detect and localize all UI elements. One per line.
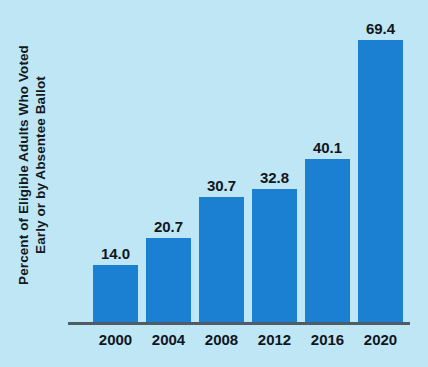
bar-series: 14.0 20.7 30.7 32.8 40.1 69.4 <box>68 14 412 322</box>
bar-rect <box>146 238 191 322</box>
bar-rect <box>199 197 244 322</box>
bar-rect <box>358 40 403 322</box>
y-axis-title-line-2: Early or by Absentee Ballot <box>32 45 49 285</box>
x-tick-label: 2008 <box>199 327 244 355</box>
bar-rect <box>305 159 350 322</box>
bar-chart: Percent of Eligible Adults Who Voted Ear… <box>0 0 428 367</box>
bar-value-label: 40.1 <box>313 140 342 156</box>
bar-value-label: 69.4 <box>366 21 395 37</box>
bar-group-2020: 69.4 <box>358 14 403 322</box>
bar-rect <box>252 189 297 322</box>
x-tick-label: 2016 <box>305 327 350 355</box>
x-tick-label: 2000 <box>93 327 138 355</box>
bar-group-2012: 32.8 <box>252 14 297 322</box>
x-tick-label: 2012 <box>252 327 297 355</box>
x-axis-tick-labels: 2000 2004 2008 2012 2016 2020 <box>68 327 412 355</box>
bar-rect <box>93 265 138 322</box>
x-tick-label: 2004 <box>146 327 191 355</box>
bar-value-label: 20.7 <box>154 219 183 235</box>
bar-group-2000: 14.0 <box>93 14 138 322</box>
x-tick-label: 2020 <box>358 327 403 355</box>
bar-value-label: 30.7 <box>207 178 236 194</box>
bar-value-label: 32.8 <box>260 170 289 186</box>
y-axis-title-line-1: Percent of Eligible Adults Who Voted <box>15 45 32 285</box>
x-axis-line <box>68 322 410 325</box>
bar-value-label: 14.0 <box>101 246 130 262</box>
bar-group-2008: 30.7 <box>199 14 244 322</box>
bar-group-2004: 20.7 <box>146 14 191 322</box>
y-axis-title: Percent of Eligible Adults Who Voted Ear… <box>0 0 64 330</box>
plot-area: 14.0 20.7 30.7 32.8 40.1 69.4 <box>68 14 412 322</box>
bar-group-2016: 40.1 <box>305 14 350 322</box>
